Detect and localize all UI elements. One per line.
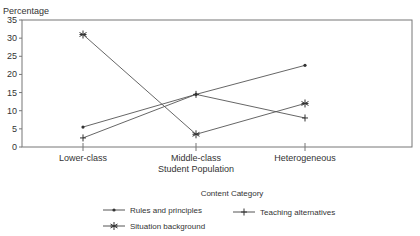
x-tick-label: Middle-class [171, 153, 222, 163]
y-tick-label: 35 [7, 15, 17, 25]
y-tick-label: 0 [12, 142, 17, 152]
legend-item: Teaching alternatives [260, 208, 335, 217]
y-tick-label: 20 [7, 69, 17, 79]
y-tick-label: 5 [12, 124, 17, 134]
y-tick-label: 15 [7, 88, 17, 98]
y-tick-label: 30 [7, 33, 17, 43]
legend-item: Situation background [130, 222, 205, 231]
y-tick-label: 10 [7, 106, 17, 116]
x-axis-label: Student Population [158, 164, 234, 174]
chart: Percentage05101520253035Lower-classMiddl… [0, 0, 420, 236]
legend-item: Rules and principles [130, 206, 202, 215]
line-chart: Percentage05101520253035Lower-classMiddl… [0, 0, 420, 236]
series-line [83, 94, 305, 138]
y-tick-label: 25 [7, 51, 17, 61]
legend-title: Content Category [201, 189, 264, 198]
x-tick-label: Lower-class [59, 153, 108, 163]
x-tick-label: Heterogeneous [274, 153, 336, 163]
series-line [83, 65, 305, 127]
series-line [83, 35, 305, 135]
